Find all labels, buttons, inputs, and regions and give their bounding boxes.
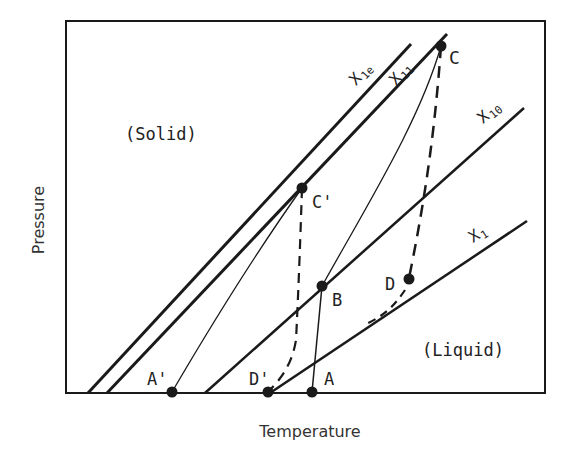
point-b	[317, 281, 328, 292]
label-x11: X 11	[385, 58, 417, 90]
label-x10: X 10	[473, 97, 505, 129]
label-a-prime: A'	[147, 369, 167, 389]
phase-diagram: C C' B D A' D' A X 1e X 11 X 10 X 1 (Sol…	[0, 0, 566, 458]
line-x1	[270, 221, 527, 393]
label-d-prime: D'	[249, 369, 269, 389]
label-c-prime: C'	[312, 192, 332, 212]
point-c-prime	[297, 183, 308, 194]
label-x1: X 1	[465, 221, 491, 248]
dashed-c-d	[409, 46, 441, 278]
point-d	[404, 274, 415, 285]
line-x11	[107, 34, 447, 393]
point-a-prime	[167, 387, 178, 398]
x-axis-label: Temperature	[258, 422, 360, 441]
region-liquid-label: (Liquid)	[422, 340, 504, 360]
label-a: A	[324, 369, 334, 389]
region-solid-label: (Solid)	[125, 124, 197, 144]
line-x1e	[88, 44, 411, 393]
line-a-b	[312, 286, 322, 392]
label-b: B	[332, 290, 342, 310]
curve-b-c	[322, 46, 441, 286]
curve-a-prime-c-prime	[172, 188, 302, 392]
y-axis-label: Pressure	[29, 186, 48, 254]
point-a	[307, 387, 318, 398]
point-c	[436, 41, 447, 52]
label-d: D	[385, 274, 395, 294]
label-c: C	[449, 47, 460, 68]
